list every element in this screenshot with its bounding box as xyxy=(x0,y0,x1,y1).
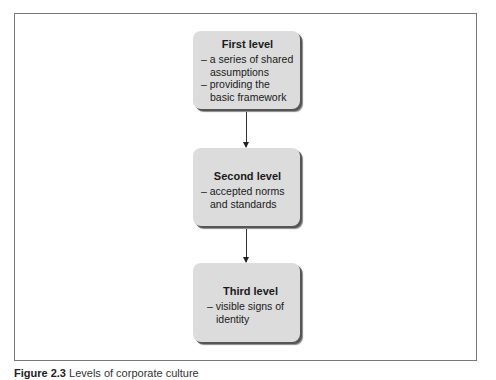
arrow-down-icon xyxy=(246,229,247,262)
level-line: – providing the basic framework xyxy=(201,78,294,103)
caption-label: Figure 2.3 xyxy=(14,367,66,379)
level-title: Second level xyxy=(201,170,294,183)
level-title: First level xyxy=(201,38,294,51)
level-line: – visible signs of identity xyxy=(207,300,294,325)
caption-text: Levels of corporate culture xyxy=(69,367,199,379)
figure-caption: Figure 2.3 Levels of corporate culture xyxy=(14,367,199,380)
level-line: – a series of shared assumptions xyxy=(201,53,294,78)
level-box-third: Third level – visible signs of identity xyxy=(193,263,300,342)
level-title: Third level xyxy=(207,285,294,298)
level-box-second: Second level – accepted norms and standa… xyxy=(193,148,300,226)
level-box-first: First level – a series of shared assumpt… xyxy=(193,31,300,109)
arrow-down-icon xyxy=(246,112,247,147)
level-line: – accepted norms and standards xyxy=(201,185,294,210)
